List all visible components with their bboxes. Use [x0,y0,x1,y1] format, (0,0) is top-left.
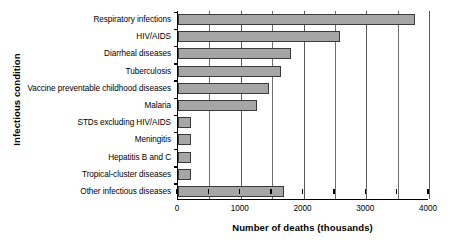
x-axis-tick-label: 3000 [340,204,390,213]
gridline-3000 [366,11,367,199]
gridline-3500 [398,11,399,199]
category-label: Malaria [15,101,171,110]
bar [178,48,291,59]
bar [178,14,415,25]
x-axis-tick [239,189,240,194]
y-axis-tick [174,132,178,133]
bar [178,152,191,163]
y-axis-tick [174,80,178,81]
category-label: Other infectious diseases [15,187,171,196]
x-axis-tick [427,189,428,194]
category-label: Vaccine preventable childhood diseases [15,84,171,93]
x-axis-tick-label: 1000 [215,204,265,213]
y-axis-tick [174,12,178,13]
bar [178,169,191,180]
y-axis-tick [174,63,178,64]
x-axis-tick-label: 0 [152,204,202,213]
category-label-list: Respiratory infectionsHIV/AIDSDiarrheal … [18,11,174,200]
category-label: Tropical-cluster diseases [15,170,171,179]
y-axis-tick [174,46,178,47]
bar [178,31,340,42]
bar [178,117,191,128]
x-axis-tick [270,189,271,194]
y-axis-tick [174,149,178,150]
category-label: Meningitis [15,135,171,144]
category-label: Tuberculosis [15,67,171,76]
y-axis-tick [174,98,178,99]
bar [178,186,284,197]
category-label: Respiratory infections [15,15,171,24]
y-axis-tick [174,115,178,116]
plot-area [177,11,428,200]
bar [178,66,281,77]
y-axis-tick [174,29,178,30]
bar [178,100,257,111]
bar [178,134,191,145]
x-axis-title: Number of deaths (thousands) [177,222,428,233]
category-label: HIV/AIDS [15,32,171,41]
category-label: Hepatitis B and C [15,153,171,162]
y-axis-tick [174,166,178,167]
x-axis-tick [208,189,209,194]
bar-chart: Infectious condition Respiratory infecti… [0,0,455,247]
category-label: STDs excluding HIV/AIDS [15,118,171,127]
x-axis-tick [302,189,303,194]
category-label: Diarrheal diseases [15,49,171,58]
x-axis-tick [365,189,366,194]
bar [178,83,269,94]
gridline-4000 [429,11,430,199]
x-axis-tick [333,189,334,194]
x-axis-tick [396,189,397,194]
x-axis-tick [176,189,177,194]
x-axis-tick-label: 2000 [278,204,328,213]
x-axis-tick-label: 4000 [403,204,453,213]
y-axis-tick [174,183,178,184]
